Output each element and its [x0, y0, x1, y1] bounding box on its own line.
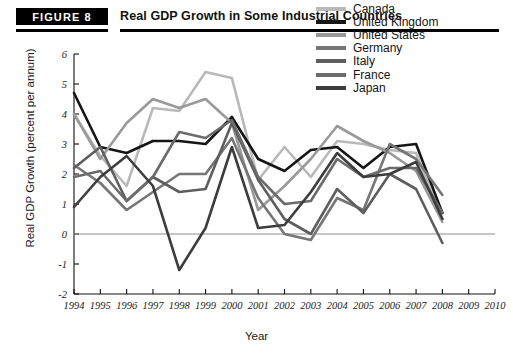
legend-swatch-icon	[316, 7, 346, 11]
y-tick-label: 3	[61, 139, 67, 150]
y-tick-label: -1	[58, 259, 67, 270]
legend-item[interactable]: United Kingdom	[316, 15, 438, 28]
legend-item[interactable]: Canada	[316, 2, 438, 15]
y-tick-label: 2	[62, 169, 68, 180]
x-tick-label: 2008	[432, 300, 454, 311]
y-tick-label: 4	[62, 109, 68, 120]
y-tick-label: 5	[62, 79, 67, 90]
x-tick-label: 2006	[379, 300, 401, 311]
figure-container: FIGURE 8 Real GDP Growth in Some Industr…	[0, 0, 513, 359]
legend-swatch-icon	[316, 59, 346, 63]
y-tick-label: 6	[62, 49, 68, 60]
x-tick-label: 2002	[274, 300, 296, 311]
series-layer	[74, 72, 442, 270]
legend-item-label: Italy	[353, 55, 375, 67]
x-tick-label: 2005	[353, 300, 374, 311]
legend-item-label: United Kingdom	[353, 16, 438, 28]
x-tick-label: 1995	[90, 300, 111, 311]
x-tick-label: 2009	[458, 300, 480, 311]
x-tick-label: 1997	[142, 300, 164, 311]
legend-swatch-icon	[316, 33, 346, 37]
x-tick-label: 1999	[195, 300, 217, 311]
x-tick-label: 2000	[221, 300, 243, 311]
tick-label-layer: -2-1012345619941995199619971998199920002…	[58, 49, 506, 311]
legend-item[interactable]: Japan	[316, 81, 438, 94]
x-tick-label: 2001	[248, 300, 269, 311]
legend-item-label: United States	[353, 29, 425, 41]
x-tick-label: 2007	[406, 300, 428, 311]
legend-item[interactable]: France	[316, 68, 438, 81]
legend-swatch-icon	[316, 20, 346, 24]
legend-item[interactable]: Germany	[316, 42, 438, 55]
legend-item-label: France	[353, 69, 390, 81]
x-tick-label: 2003	[300, 300, 321, 311]
legend-item-label: Canada	[353, 3, 395, 15]
figure-number-badge: FIGURE 8	[16, 8, 108, 25]
y-tick-label: 0	[62, 229, 68, 240]
legend-swatch-icon	[316, 86, 346, 90]
legend-item[interactable]: United States	[316, 28, 438, 41]
x-tick-label: 1996	[116, 300, 138, 311]
y-tick-label: -2	[58, 289, 67, 300]
y-tick-label: 1	[62, 199, 67, 210]
legend-item-label: Germany	[353, 42, 402, 54]
legend-item[interactable]: Italy	[316, 55, 438, 68]
x-tick-label: 2010	[485, 300, 507, 311]
legend-swatch-icon	[316, 73, 346, 77]
x-tick-label: 1998	[169, 300, 191, 311]
header-rule-right	[120, 29, 499, 32]
x-tick-label: 1994	[64, 300, 86, 311]
x-tick-label: 2004	[327, 300, 349, 311]
legend-swatch-icon	[316, 46, 346, 50]
legend-item-label: Japan	[353, 82, 386, 94]
chart-legend: CanadaUnited KingdomUnited StatesGermany…	[316, 2, 438, 94]
